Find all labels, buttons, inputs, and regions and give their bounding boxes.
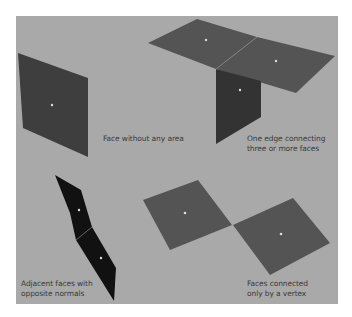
mesh-illustrations (0, 0, 352, 317)
label-non-manifold-edge: One edge connecting three or more faces (247, 134, 325, 154)
zero-area-face-illustration (18, 53, 88, 157)
label-vertex-only: Faces connected only by a vertex (247, 279, 308, 299)
non-manifold-edge-illustration (148, 19, 335, 144)
label-opposite-normals: Adjacent faces with opposite normals (21, 279, 93, 299)
vertex-only-illustration (143, 180, 330, 275)
label-zero-area-face: Face without any area (103, 134, 184, 144)
